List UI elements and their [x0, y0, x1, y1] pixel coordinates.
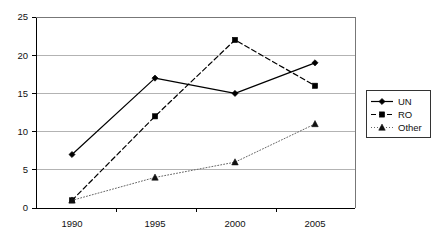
y-tick-label-0: 0 [23, 202, 28, 213]
y-tick-label-25: 25 [17, 11, 28, 22]
chart-canvas: 0510152025 1990199520002005 UNROOther [0, 0, 438, 248]
legend-label-other[interactable]: Other [398, 122, 422, 133]
legend-label-ro[interactable]: RO [398, 109, 412, 120]
line-chart: 0510152025 1990199520002005 UNROOther [0, 0, 438, 248]
x-tick-label-2005: 2005 [304, 218, 325, 229]
x-tick-label-2000: 2000 [224, 218, 245, 229]
y-tick-label-20: 20 [17, 50, 28, 61]
x-tick-label-1990: 1990 [61, 218, 82, 229]
y-tick-label-10: 10 [17, 126, 28, 137]
series-ro-marker-2 [232, 37, 237, 42]
legend-ro-marker-0 [379, 112, 384, 117]
chart-legend: UNROOther [366, 90, 430, 137]
y-tick-label-5: 5 [23, 164, 28, 175]
y-tick-label-15: 15 [17, 88, 28, 99]
x-tick-label-1995: 1995 [144, 218, 165, 229]
legend-label-un[interactable]: UN [398, 96, 412, 107]
series-ro-marker-3 [312, 83, 317, 88]
series-ro-marker-1 [152, 114, 157, 119]
